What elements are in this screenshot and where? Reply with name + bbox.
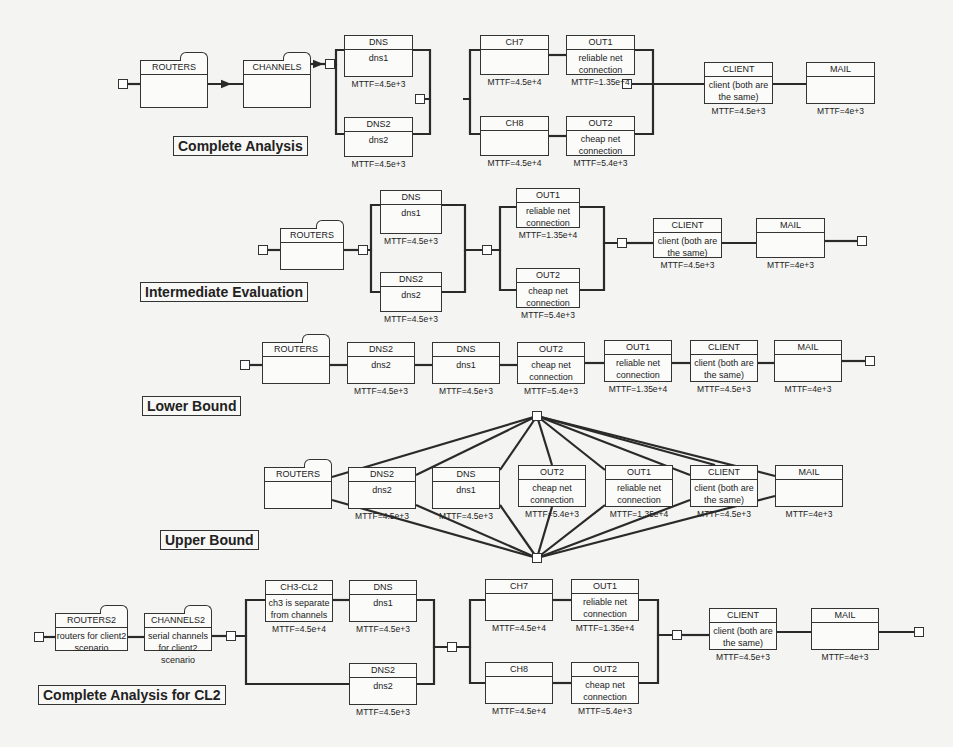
connector-node[interactable] (672, 630, 682, 640)
block-description: dns1 (345, 50, 412, 64)
connector-node[interactable] (415, 94, 425, 104)
block-out1[interactable]: OUT1reliable net connection (516, 188, 580, 228)
connector-node[interactable] (226, 631, 236, 641)
block-channels[interactable]: CHANNELS (243, 60, 311, 108)
block-dns2[interactable]: DNS2dns2 (348, 467, 416, 509)
block-name: DNS (433, 343, 499, 357)
block-out1[interactable]: OUT1reliable net connection (566, 35, 635, 75)
block-client[interactable]: CLIENTclient (both are the same) (690, 465, 758, 507)
block-mail[interactable]: MAIL (775, 465, 843, 507)
connector-node[interactable] (34, 632, 44, 642)
block-description: dns2 (381, 287, 441, 301)
block-dns2[interactable]: DNS2dns2 (380, 272, 442, 312)
connector-node[interactable] (532, 553, 542, 563)
connector-node[interactable] (240, 360, 250, 370)
block-out2[interactable]: OUT2cheap net connection (571, 662, 639, 704)
mttf-value: MTTF=4.5e+3 (344, 79, 413, 89)
block-mail[interactable]: MAIL (756, 218, 825, 258)
block-name: MAIL (812, 609, 878, 623)
block-routers[interactable]: ROUTERS (264, 467, 332, 509)
connector-node[interactable] (865, 356, 875, 366)
mttf-value: MTTF=4.5e+3 (690, 509, 758, 519)
block-routers[interactable]: ROUTERS (280, 228, 344, 270)
block-ch7[interactable]: CH7 (480, 35, 549, 75)
block-out2[interactable]: OUT2cheap net connection (517, 342, 585, 384)
mttf-value: MTTF=4e+3 (774, 384, 842, 394)
block-description (812, 623, 878, 625)
block-dns2[interactable]: DNS2dns2 (349, 663, 417, 705)
block-out2[interactable]: OUT2cheap net connection (566, 116, 635, 156)
mttf-value: MTTF=4.5e+3 (349, 707, 417, 717)
block-mail[interactable]: MAIL (811, 608, 879, 650)
block-out1[interactable]: OUT1reliable net connection (605, 465, 673, 507)
connector-node[interactable] (447, 642, 457, 652)
block-name: MAIL (807, 63, 874, 77)
block-dns[interactable]: DNSdns1 (349, 580, 417, 622)
block-ch8[interactable]: CH8 (485, 662, 553, 704)
block-client[interactable]: CLIENTclient (both are the same) (690, 340, 758, 382)
block-ch7[interactable]: CH7 (485, 579, 553, 621)
block-dns[interactable]: DNSdns1 (432, 342, 500, 384)
block-description: dns1 (433, 482, 499, 496)
mttf-value: MTTF=5.4e+3 (517, 386, 585, 396)
block-name: MAIL (775, 341, 841, 355)
section-label-complete: Complete Analysis (173, 136, 308, 156)
block-ch8[interactable]: CH8 (480, 116, 549, 156)
mttf-value: MTTF=1.35e+4 (604, 384, 672, 394)
block-out2[interactable]: OUT2cheap net connection (516, 268, 580, 308)
connector-node[interactable] (857, 236, 867, 246)
block-dns[interactable]: DNSdns1 (344, 35, 413, 77)
block-out1[interactable]: OUT1reliable net connection (604, 340, 672, 382)
block-name: CH3-CL2 (266, 581, 332, 595)
block-client[interactable]: CLIENTclient (both are the same) (653, 218, 722, 258)
connector-node[interactable] (118, 79, 128, 89)
block-description (281, 243, 343, 245)
block-name: CH7 (486, 580, 552, 594)
block-client[interactable]: CLIENTclient (both are the same) (704, 62, 773, 104)
block-name: ROUTERS2 (56, 614, 127, 628)
block-name: DNS2 (345, 118, 412, 132)
block-out2[interactable]: OUT2cheap net connection (518, 465, 586, 507)
connector-node[interactable] (914, 627, 924, 637)
block-mail[interactable]: MAIL (806, 62, 875, 104)
block-routers[interactable]: ROUTERS (262, 342, 330, 384)
connector-node[interactable] (258, 245, 268, 255)
connector-node[interactable] (617, 238, 627, 248)
connector-node[interactable] (325, 59, 335, 69)
block-dns[interactable]: DNSdns1 (432, 467, 500, 509)
section-label-upper: Upper Bound (160, 530, 259, 550)
block-dns2[interactable]: DNS2dns2 (344, 117, 413, 157)
block-routers[interactable]: ROUTERS (140, 60, 208, 108)
mttf-value: MTTF=4e+3 (811, 652, 879, 662)
mttf-value: MTTF=4.5e+4 (485, 706, 553, 716)
block-description: dns2 (349, 482, 415, 496)
block-mail[interactable]: MAIL (774, 340, 842, 382)
section-label-complete-cl2: Complete Analysis for CL2 (38, 685, 226, 705)
connector-node[interactable] (532, 411, 542, 421)
block-description: reliable net connection (606, 480, 672, 506)
block-name: CLIENT (691, 466, 757, 480)
connector-node[interactable] (358, 245, 368, 255)
mttf-value: MTTF=4.5e+3 (380, 314, 442, 324)
block-routers2[interactable]: ROUTERS2routers for client2 scenario (55, 613, 128, 651)
block-ch3cl2[interactable]: CH3-CL2ch3 is separate from channels (265, 580, 333, 622)
block-description (265, 482, 331, 484)
block-name: OUT2 (519, 466, 585, 480)
block-channels2[interactable]: CHANNELS2serial channels for client2 sce… (144, 613, 212, 651)
block-name: DNS (381, 191, 441, 205)
block-name: MAIL (757, 219, 824, 233)
connector-node[interactable] (482, 245, 492, 255)
mttf-value: MTTF=4.5e+3 (432, 511, 500, 521)
block-name: DNS (345, 36, 412, 50)
block-dns2[interactable]: DNS2dns2 (347, 342, 415, 384)
block-description: cheap net connection (518, 357, 584, 383)
block-out1[interactable]: OUT1reliable net connection (571, 579, 639, 621)
block-description (776, 480, 842, 482)
mttf-value: MTTF=5.4e+3 (571, 706, 639, 716)
block-name: OUT2 (518, 343, 584, 357)
block-dns[interactable]: DNSdns1 (380, 190, 442, 234)
block-name: ROUTERS (141, 61, 207, 75)
block-description (757, 233, 824, 235)
mttf-value: MTTF=4.5e+3 (653, 260, 722, 270)
block-client[interactable]: CLIENTclient (both are the same) (709, 608, 777, 650)
